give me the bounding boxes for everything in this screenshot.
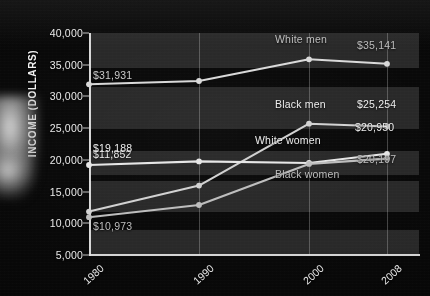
value-white-women-start: $19,188: [93, 142, 132, 154]
y-tick-35000: 35,000: [50, 59, 83, 71]
y-tick-25000: 25,000: [50, 122, 83, 134]
x-tick-2008: 2008: [379, 262, 404, 287]
value-black-men-end: $25,254: [357, 98, 396, 110]
label-black-women: Black women: [275, 168, 340, 180]
y-axis-tick-labels: 40,000 35,000 30,000 25,000 20,000 15,00…: [33, 33, 83, 255]
value-black-women-end: $20,197: [357, 153, 396, 165]
series-lines: [89, 33, 419, 255]
x-tick-2000: 2000: [301, 262, 326, 287]
label-white-women: White women: [255, 134, 321, 146]
label-black-men: Black men: [275, 98, 326, 110]
y-tick-5000: 5,000: [56, 249, 83, 261]
chart-photo-stage: INCOME (DOLLARS) 40,000 35,000 30,000 25…: [0, 0, 430, 296]
plot-area: White men $35,141 $31,931 Black men $25,…: [89, 33, 419, 255]
x-axis-tick-labels: 1980 1990 2000 2008: [89, 262, 419, 296]
value-white-men-end: $35,141: [357, 39, 396, 51]
y-tick-40000: 40,000: [50, 27, 83, 39]
label-white-men: White men: [275, 33, 327, 45]
value-white-men-start: $31,931: [93, 69, 132, 81]
series-black-men: [86, 121, 390, 215]
y-tick-10000: 10,000: [50, 217, 83, 229]
x-tick-1990: 1990: [191, 262, 216, 287]
y-tick-20000: 20,000: [50, 154, 83, 166]
y-tick-15000: 15,000: [50, 186, 83, 198]
y-tick-30000: 30,000: [50, 90, 83, 102]
series-black-women: [86, 156, 390, 220]
value-black-women-start: $10,973: [93, 220, 132, 232]
x-tick-1980: 1980: [81, 262, 106, 287]
value-white-women-end: $20,950: [355, 121, 394, 133]
